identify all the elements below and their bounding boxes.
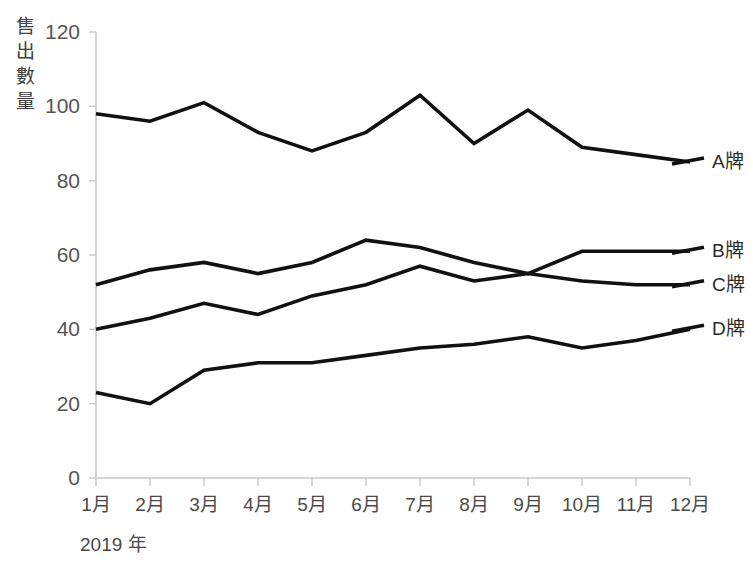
x-tick-label: 6月 [351,494,381,515]
y-tick-label: 80 [57,169,80,192]
series-line-D牌 [96,329,690,403]
y-tick-label: 40 [57,317,80,340]
legend-label: B牌 [712,240,744,261]
x-tick-label: 2月 [135,494,165,515]
data-series-lines [96,95,690,403]
legend-item-A牌[interactable]: A牌 [672,151,744,172]
x-tick-label: 1月 [81,494,111,515]
x-tick-label: 7月 [405,494,435,515]
chart-container: 售 出 數 量 020406080100120 1月2月3月4月5月6月7月8月… [0,0,753,575]
line-chart-plot: 020406080100120 1月2月3月4月5月6月7月8月9月10月11月… [0,0,753,575]
y-tick-label: 60 [57,243,80,266]
legend-item-B牌[interactable]: B牌 [672,240,744,261]
legend-item-C牌[interactable]: C牌 [672,274,745,295]
x-tick-label: 12月 [670,494,710,515]
x-tick-label: 4月 [243,494,273,515]
x-tick-label: 3月 [189,494,219,515]
axis-tick-marks [89,32,690,486]
legend-item-D牌[interactable]: D牌 [672,318,745,339]
x-tick-label: 5月 [297,494,327,515]
y-tick-label: 120 [45,20,80,43]
x-axis-title: 2019 年 [80,534,147,555]
x-tick-label: 11月 [617,494,656,515]
legend-label: D牌 [712,318,745,339]
x-axis-tick-labels: 1月2月3月4月5月6月7月8月9月10月11月12月 [81,494,710,515]
legend: A牌B牌C牌D牌 [672,151,745,339]
y-axis-tick-labels: 020406080100120 [45,20,80,489]
axis-lines [96,32,690,478]
x-tick-label: 8月 [459,494,489,515]
legend-label: C牌 [712,274,745,295]
legend-label: A牌 [712,151,744,172]
x-tick-label: 10月 [562,494,602,515]
series-line-A牌 [96,95,690,162]
y-tick-label: 20 [57,392,80,415]
series-line-B牌 [96,240,690,285]
y-tick-label: 100 [45,94,80,117]
x-tick-label: 9月 [513,494,543,515]
y-tick-label: 0 [68,466,80,489]
series-line-C牌 [96,266,690,329]
